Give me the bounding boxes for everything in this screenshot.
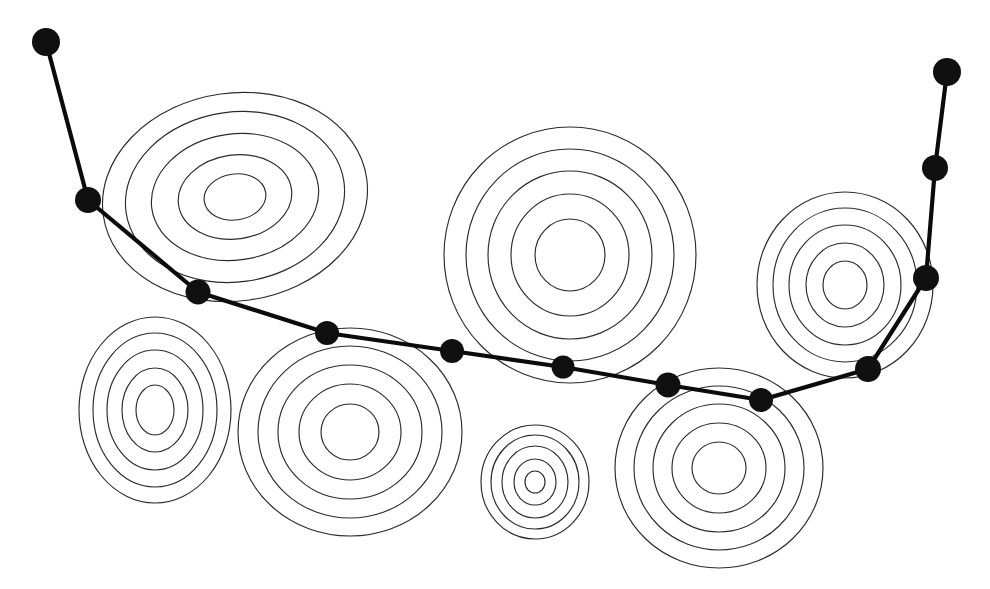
path-node-marker <box>913 265 939 291</box>
path-node-marker <box>32 28 60 56</box>
path-node-marker <box>552 356 575 379</box>
path-node-marker <box>933 58 961 86</box>
path-node-marker <box>315 321 339 345</box>
path-node-marker <box>656 373 681 398</box>
contour-path-figure <box>0 0 990 589</box>
contour-figure-canvas <box>0 0 990 589</box>
path-node-marker <box>855 356 881 382</box>
path-node-marker <box>440 339 464 363</box>
path-node-marker <box>749 388 773 412</box>
path-node-marker <box>75 187 101 213</box>
path-node-marker <box>186 280 211 305</box>
path-node-marker <box>922 155 948 181</box>
